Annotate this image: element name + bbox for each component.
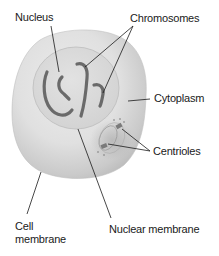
label-cell-membrane-line2: membrane [15, 233, 75, 246]
label-cell-membrane: Cell membrane [15, 220, 75, 246]
label-cytoplasm: Cytoplasm [154, 92, 204, 104]
label-cell-membrane-line1: Cell [15, 220, 75, 233]
label-centrioles: Centrioles [153, 145, 201, 157]
label-nucleus: Nucleus [15, 11, 53, 23]
nucleus [33, 47, 119, 129]
cell-membrane-leader [27, 172, 41, 214]
label-nuclear-membrane: Nuclear membrane [109, 223, 199, 235]
cell-diagram [0, 0, 219, 256]
label-chromosomes: Chromosomes [130, 12, 199, 24]
